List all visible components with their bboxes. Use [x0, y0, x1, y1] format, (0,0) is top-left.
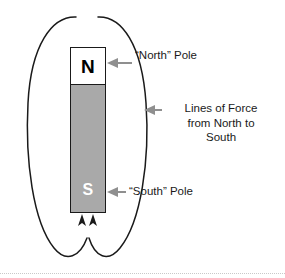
lines-of-force-label-line-2: from North to	[165, 116, 277, 131]
south-pole-letter: S	[82, 182, 93, 198]
field-arrowhead-left	[78, 214, 86, 226]
lines-of-force-label-line-3: South	[165, 130, 277, 145]
callout-arrow-north-icon	[107, 58, 132, 68]
lines-of-force-label-line-1: Lines of Force	[165, 101, 277, 116]
bar-magnet: N S	[70, 47, 106, 213]
south-pole-label: “South” Pole	[129, 184, 193, 199]
lines-of-force-label: Lines of Force from North to South	[165, 101, 277, 145]
magnet-north-section: N	[71, 48, 105, 84]
callout-arrow-south-icon	[107, 187, 126, 197]
magnet-south-section: S	[71, 84, 105, 212]
bottom-divider	[0, 273, 285, 275]
field-arrowhead-right	[89, 214, 97, 226]
magnet-field-diagram: N S “North” Pole Lines of Force from Nor…	[0, 0, 285, 278]
north-pole-letter: N	[81, 57, 95, 76]
north-pole-label: “North” Pole	[135, 48, 197, 63]
